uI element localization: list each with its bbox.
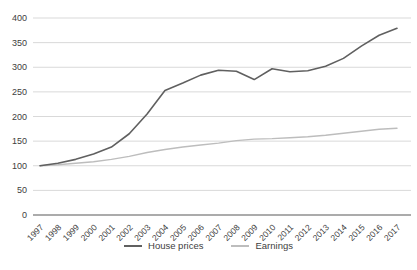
- y-tick-label: 400: [12, 13, 27, 23]
- earnings-line: [40, 128, 397, 165]
- y-tick-label: 0: [22, 210, 27, 220]
- house-prices-line-swatch: [124, 245, 142, 247]
- y-tick-label: 100: [12, 161, 27, 171]
- legend-entry-earnings: Earnings: [231, 240, 293, 251]
- gridlines-group: [33, 18, 411, 215]
- legend-entry-house-prices: House prices: [124, 240, 203, 251]
- earnings-line-swatch: [231, 245, 249, 247]
- chart-svg: 050100150200250300350400 199719981999200…: [0, 0, 417, 270]
- y-tick-label: 200: [12, 112, 27, 122]
- y-axis-labels-group: 050100150200250300350400: [12, 13, 27, 220]
- legend-label-house-prices: House prices: [148, 240, 203, 251]
- y-tick-label: 250: [12, 87, 27, 97]
- legend: House prices Earnings: [0, 240, 417, 251]
- y-tick-label: 300: [12, 62, 27, 72]
- y-tick-label: 150: [12, 136, 27, 146]
- house-prices-line: [40, 28, 397, 165]
- legend-label-earnings: Earnings: [255, 240, 293, 251]
- chart-figure: 050100150200250300350400 199719981999200…: [0, 0, 417, 270]
- series-group: [40, 28, 397, 165]
- y-tick-label: 350: [12, 38, 27, 48]
- y-tick-label: 50: [17, 185, 27, 195]
